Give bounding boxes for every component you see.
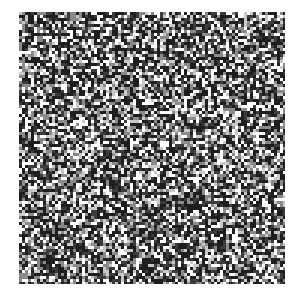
- noise-texture-image: [19, 12, 285, 284]
